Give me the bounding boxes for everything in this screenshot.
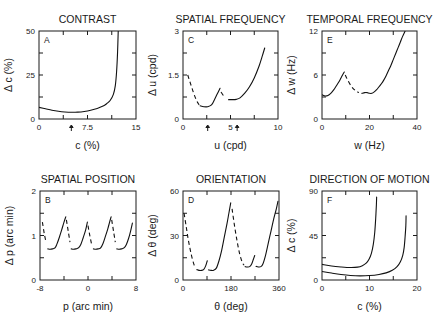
curve-segment-1 [322,72,344,96]
panel-title: SPATIAL POSITION [41,173,135,185]
x-tick-label: 15 [132,123,141,132]
x-axis-label: p (arc min) [63,300,113,312]
curve-segment-3 [362,31,405,93]
y-tick-label: 45 [309,232,318,241]
panel-letter: A [44,35,50,45]
y-tick-label: 90 [309,187,318,196]
y-tick-label: 0 [314,276,319,285]
x-tick-label: 0 [181,284,186,293]
curves [322,197,406,276]
y-tick-label: 0 [175,276,180,285]
y-tick-label: 25 [26,71,35,80]
x-tick-label: 7.5 [82,123,94,132]
y-axis-label: Δ c (%) [285,219,297,253]
y-axis-label: Δ p (arc min) [3,206,15,266]
curves [184,201,278,270]
y-tick-label: 6 [314,71,319,80]
panel-c-spatial-frequency: SPATIAL FREQUENCY Δ u (cpd) u (cpd) C 05… [146,13,286,151]
y-tick-label: 1.5 [168,71,180,80]
panel-b-spatial-position: SPATIAL POSITION Δ p (arc min) p (arc mi… [3,173,139,312]
panel-e-temporal-frequency: TEMPORAL FREQUENCY Δ w (Hz) w (Hz) E 020… [285,13,433,151]
arrow-head [206,125,210,128]
y-axis-label: Δ w (Hz) [285,55,297,95]
arrow-head [235,125,239,128]
curve-threshold [39,31,118,112]
x-tick-label: -8 [36,284,44,293]
curves [322,31,405,96]
y-axis-label: Δ u (cpd) [146,54,158,96]
curve-segment-4 [232,209,244,265]
y-tick-label: 0 [314,115,319,124]
x-axis-label: c (%) [75,139,100,151]
curve-segment-4 [229,48,265,100]
y-tick-label: 50 [26,27,35,36]
axes-frame [322,31,417,119]
y-tick-label: 1 [32,232,37,241]
panel-title: TEMPORAL FREQUENCY [306,13,432,25]
x-tick-label: 0 [37,123,42,132]
x-tick-label: 5 [228,123,233,132]
y-tick-label: 0 [31,115,36,124]
y-tick-label: 2 [32,187,37,196]
panel-a-contrast: CONTRAST Δ c (%) c (%) A 07.51502550 [2,13,141,151]
x-tick-label: 0 [181,123,186,132]
up-arrow-icon [235,125,239,131]
x-tick-label: 40 [413,123,422,132]
curve-segment-5 [245,256,255,267]
up-arrow-icon [206,125,210,131]
x-axis-label: c (%) [357,300,382,312]
up-arrow-icon [70,125,74,131]
panel-title: DIRECTION OF MOTION [309,173,429,185]
x-tick-label: 20 [365,123,374,132]
y-tick-label: 0 [32,276,37,285]
curve-segment-6 [93,217,111,249]
curve-segment-8 [117,223,133,249]
curve-segment-3 [209,203,231,271]
x-axis-label: u (cpd) [214,139,247,151]
panel-title: ORIENTATION [196,173,266,185]
curve-segment-1 [42,222,46,242]
curve-segment-2 [48,217,66,249]
panel-title: SPATIAL FREQUENCY [175,13,285,25]
panel-letter: B [45,195,51,205]
x-axis-label: w (Hz) [353,139,384,151]
axes-frame [183,31,278,119]
plot-area: 051001.53 [168,27,283,132]
y-tick-label: 12 [309,27,318,36]
curve-segment-2 [200,88,220,107]
panel-letter: F [327,195,332,205]
y-tick-label: 60 [170,187,179,196]
panel-letter: C [188,35,194,45]
curves [188,48,265,107]
panel-title: CONTRAST [59,13,117,25]
figure: CONTRAST Δ c (%) c (%) A 07.51502550 SPA… [0,0,434,320]
curve-segment-4 [71,222,87,249]
panel-letter: E [327,35,333,45]
curve-segment-7 [112,220,116,242]
panel-f-direction-of-motion: DIRECTION OF MOTION Δ c (%) c (%) F 0102… [285,173,430,312]
x-tick-label: 10 [274,123,283,132]
x-tick-label: 0 [86,284,91,293]
curve-segment-2 [345,75,359,93]
panel-letter: D [188,195,194,205]
y-tick-label: 3 [175,27,180,36]
x-tick-label: 10 [365,284,374,293]
curve-curve-upper [322,197,377,268]
axes-frame [40,191,136,280]
y-tick-label: 30 [170,232,179,241]
curve-segment-2 [197,261,207,271]
y-tick-label: 0 [175,115,180,124]
x-tick-label: 0 [320,123,325,132]
x-tick-label: 180 [224,284,238,293]
curves [39,31,118,112]
curve-segment-3 [66,220,70,242]
y-axis-label: Δ θ (deg) [146,214,158,257]
curve-segment-3 [221,92,224,97]
curve-segment-1 [188,75,199,105]
curves [42,217,132,249]
curve-segment-5 [88,226,92,245]
x-axis-label: θ (deg) [214,300,247,312]
x-tick-label: 20 [413,284,422,293]
x-tick-label: 360 [272,284,286,293]
x-tick-label: 8 [134,284,139,293]
